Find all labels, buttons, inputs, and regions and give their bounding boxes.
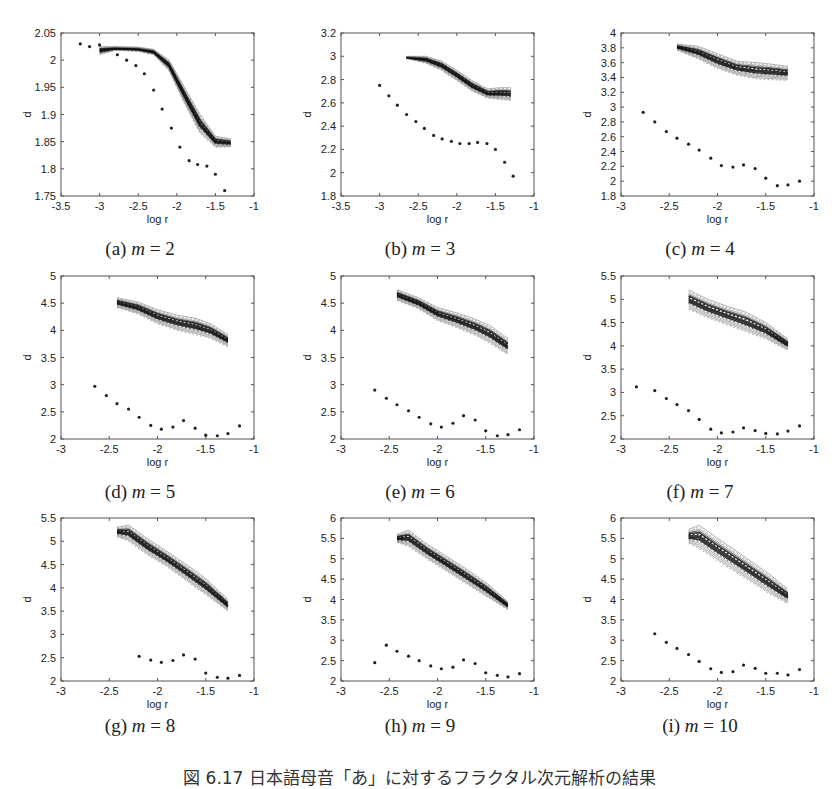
x-tick-label: -3	[616, 443, 626, 455]
x-tick-label: -1.5	[756, 685, 775, 697]
plot-e: -3-2.5-2-1.5-122.533.544.55log rd	[280, 243, 560, 478]
y-tick-label: 2	[610, 175, 616, 187]
y-tick-label: 4.5	[601, 317, 616, 329]
y-tick-label: 4.5	[321, 297, 336, 309]
y-tick-label: 2.5	[601, 655, 616, 667]
x-axis-label: log r	[427, 698, 449, 710]
plot-frame	[341, 33, 534, 196]
x-tick-label: -1.5	[486, 200, 505, 212]
chart-panel-g: -3-2.5-2-1.5-122.533.544.555.5log rd	[0, 485, 280, 730]
x-tick-label: -3	[336, 443, 346, 455]
plot-i: -3-2.5-2-1.5-122.533.544.555.56log rd	[560, 485, 839, 720]
chart-panel-h: -3-2.5-2-1.5-122.533.544.555.56log rd	[280, 485, 560, 730]
y-tick-label: 2.5	[321, 655, 336, 667]
x-axis-label: log r	[427, 213, 449, 225]
x-tick-label: -3	[95, 200, 105, 212]
curve-bundle	[397, 530, 508, 610]
chart-panel-d: -3-2.5-2-1.5-122.533.544.55log rd	[0, 243, 280, 488]
x-tick-label: -2	[153, 443, 163, 455]
y-tick-label: 4	[330, 324, 336, 336]
y-tick-label: 2.5	[41, 652, 56, 664]
x-tick-label: -3	[56, 443, 66, 455]
x-tick-label: -3	[616, 200, 626, 212]
scatter-points	[373, 389, 521, 438]
y-axis-label: d	[21, 596, 33, 602]
y-axis-label: d	[581, 596, 593, 602]
x-tick-label: -2.5	[660, 685, 679, 697]
y-tick-label: 3.2	[601, 86, 616, 98]
x-tick-label: -2	[172, 200, 182, 212]
curve-bundle	[100, 47, 231, 148]
y-tick-label: 5	[330, 553, 336, 565]
x-tick-label: -3	[336, 685, 346, 697]
plot-frame	[61, 276, 254, 439]
plot-frame	[621, 276, 814, 439]
y-tick-label: 5.5	[601, 270, 616, 282]
y-tick-label: 2.4	[601, 146, 616, 158]
y-axis-label: d	[581, 354, 593, 360]
y-tick-label: 4	[610, 594, 616, 606]
y-tick-label: 3	[610, 101, 616, 113]
subfigure-label-i: (i) m = 10	[560, 715, 839, 737]
x-tick-label: -2	[713, 200, 723, 212]
y-tick-label: 1.8	[601, 190, 616, 202]
y-tick-label: 3.5	[41, 605, 56, 617]
y-tick-label: 2	[50, 675, 56, 687]
scatter-points	[138, 653, 242, 679]
x-tick-label: -2.5	[660, 200, 679, 212]
plot-d: -3-2.5-2-1.5-122.533.544.55log rd	[0, 243, 280, 478]
y-tick-label: 2	[610, 675, 616, 687]
y-tick-label: 2	[610, 433, 616, 445]
plot-c: -3-2.5-2-1.5-11.822.22.42.62.833.23.43.6…	[560, 0, 839, 235]
y-axis-label: d	[301, 354, 313, 360]
curve-bundle	[117, 525, 228, 611]
curve-bundle	[407, 56, 511, 100]
x-axis-label: log r	[147, 456, 169, 468]
y-tick-label: 3	[610, 634, 616, 646]
x-tick-label: -2	[433, 685, 443, 697]
plot-f: -3-2.5-2-1.5-122.533.544.555.5log rd	[560, 243, 839, 478]
y-tick-label: 3.5	[601, 363, 616, 375]
y-axis-label: d	[581, 111, 593, 117]
x-axis-label: log r	[147, 698, 169, 710]
plot-g: -3-2.5-2-1.5-122.533.544.555.5log rd	[0, 485, 280, 720]
x-tick-label: -1.5	[476, 443, 495, 455]
x-tick-label: -1	[809, 443, 819, 455]
y-tick-label: 2.05	[35, 27, 56, 39]
x-tick-label: -2.5	[100, 685, 119, 697]
x-tick-label: -1	[529, 443, 539, 455]
y-tick-label: 2	[330, 167, 336, 179]
x-tick-label: -1	[249, 200, 259, 212]
y-tick-label: 2.8	[601, 116, 616, 128]
x-tick-label: -1	[809, 685, 819, 697]
curve-bundle	[677, 44, 788, 80]
plot-b: -3.5-3-2.5-2-1.5-11.822.22.42.62.833.2lo…	[280, 0, 560, 235]
y-axis-label: d	[21, 354, 33, 360]
y-tick-label: 4.5	[601, 573, 616, 585]
x-axis-label: log r	[707, 213, 729, 225]
x-tick-label: -1.5	[206, 200, 225, 212]
x-tick-label: -1.5	[196, 685, 215, 697]
y-tick-label: 5	[50, 535, 56, 547]
x-tick-label: -1.5	[756, 200, 775, 212]
x-tick-label: -2.5	[380, 443, 399, 455]
x-tick-label: -1	[809, 200, 819, 212]
x-tick-label: -3	[616, 685, 626, 697]
y-tick-label: 2.2	[601, 160, 616, 172]
y-tick-label: 3	[330, 50, 336, 62]
subfigure-label-g: (g) m = 8	[0, 715, 280, 737]
x-axis-label: log r	[147, 213, 169, 225]
y-tick-label: 2	[50, 54, 56, 66]
x-tick-label: -2	[713, 685, 723, 697]
y-axis-label: d	[301, 111, 313, 117]
x-tick-label: -2	[433, 443, 443, 455]
y-tick-label: 3.2	[321, 27, 336, 39]
y-tick-label: 3	[330, 634, 336, 646]
y-tick-label: 2	[330, 675, 336, 687]
x-tick-label: -2	[713, 443, 723, 455]
scatter-points	[642, 111, 802, 188]
x-tick-label: -1	[529, 200, 539, 212]
y-tick-label: 5.5	[601, 532, 616, 544]
curve-bundle	[117, 298, 228, 347]
y-tick-label: 4	[610, 27, 616, 39]
